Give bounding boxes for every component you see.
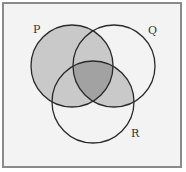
label-r: R (131, 127, 140, 140)
venn-diagram: P Q R (0, 0, 186, 172)
label-p: P (33, 23, 41, 36)
label-q: Q (148, 24, 157, 37)
